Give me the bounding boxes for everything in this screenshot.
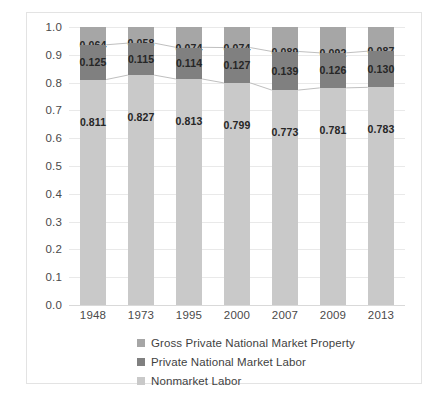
segment-private-national-market-labor[interactable]: 0.126 <box>320 53 346 88</box>
legend-label: Private National Market Labor <box>151 356 306 368</box>
bar-slot: 0.0870.1300.783 <box>357 27 405 305</box>
bar-slot: 0.0740.1140.813 <box>165 27 213 305</box>
bar-segment-value-label: 0.811 <box>80 116 106 128</box>
stacked-bar[interactable]: 0.0870.1300.783 <box>368 27 394 305</box>
segment-gross-private-national-market-property[interactable]: 0.058 <box>128 27 154 43</box>
legend-item[interactable]: Gross Private National Market Property <box>137 335 355 351</box>
segment-private-national-market-labor[interactable]: 0.130 <box>368 51 394 87</box>
segment-private-national-market-labor[interactable]: 0.125 <box>80 45 106 80</box>
segment-gross-private-national-market-property[interactable]: 0.089 <box>272 27 298 52</box>
bar-segment-value-label: 0.783 <box>368 123 395 135</box>
segment-nonmarket-labor[interactable]: 0.813 <box>176 79 202 305</box>
y-axis-tick-label: 0.9 <box>45 49 62 61</box>
segment-nonmarket-labor[interactable]: 0.799 <box>224 83 250 305</box>
legend-color-swatch <box>137 358 145 366</box>
x-axis-tick-label: 2000 <box>213 309 261 321</box>
x-axis-tick-label: 2009 <box>309 309 357 321</box>
y-axis-tick-label: 0.2 <box>45 243 62 255</box>
segment-nonmarket-labor[interactable]: 0.811 <box>80 80 106 305</box>
y-axis-tick-label: 0.8 <box>45 77 62 89</box>
bar-slot: 0.0580.1150.827 <box>117 27 165 305</box>
segment-gross-private-national-market-property[interactable]: 0.087 <box>368 27 394 51</box>
stacked-bar[interactable]: 0.0890.1390.773 <box>272 27 298 305</box>
segment-gross-private-national-market-property[interactable]: 0.092 <box>320 27 346 53</box>
legend-item[interactable]: Private National Market Labor <box>137 354 355 370</box>
x-axis-tick-label: 1973 <box>117 309 165 321</box>
segment-gross-private-national-market-property[interactable]: 0.074 <box>224 27 250 48</box>
legend-item[interactable]: Nonmarket Labor <box>137 373 355 389</box>
x-axis-tick-label: 1995 <box>165 309 213 321</box>
bar-segment-value-label: 0.139 <box>272 65 299 77</box>
segment-private-national-market-labor[interactable]: 0.114 <box>176 48 202 80</box>
legend-label: Nonmarket Labor <box>151 375 241 387</box>
segment-nonmarket-labor[interactable]: 0.783 <box>368 87 394 305</box>
y-axis-tick-label: 0.4 <box>45 188 62 200</box>
legend-color-swatch <box>137 339 145 347</box>
segment-private-national-market-labor[interactable]: 0.139 <box>272 52 298 91</box>
bar-slot: 0.0920.1260.781 <box>309 27 357 305</box>
x-axis-tick-label: 2013 <box>357 309 405 321</box>
y-axis-tick-label: 0.5 <box>45 160 62 172</box>
segment-nonmarket-labor[interactable]: 0.773 <box>272 90 298 305</box>
bar-segment-value-label: 0.827 <box>128 111 155 123</box>
bar-slot: 0.0640.1250.811 <box>69 27 117 305</box>
bar-slot: 0.0740.1270.799 <box>213 27 261 305</box>
bar-group: 0.0640.1250.8110.0580.1150.8270.0740.114… <box>69 27 405 305</box>
gridline: 0.0 <box>69 305 405 306</box>
x-axis-tick-label: 1948 <box>69 309 117 321</box>
y-axis-tick-label: 0.1 <box>45 271 62 283</box>
bar-segment-value-label: 0.813 <box>176 115 203 127</box>
bar-segment-value-label: 0.127 <box>224 59 251 71</box>
bar-segment-value-label: 0.126 <box>320 64 347 76</box>
bar-segment-value-label: 0.799 <box>224 119 251 131</box>
legend-label: Gross Private National Market Property <box>151 337 355 349</box>
y-axis-tick-label: 0.3 <box>45 216 62 228</box>
segment-nonmarket-labor[interactable]: 0.827 <box>128 75 154 305</box>
stacked-bar[interactable]: 0.0580.1150.827 <box>128 27 154 305</box>
segment-nonmarket-labor[interactable]: 0.781 <box>320 88 346 305</box>
chart-legend: Gross Private National Market PropertyPr… <box>137 335 355 389</box>
y-axis-tick-label: 0.7 <box>45 104 62 116</box>
stacked-bar[interactable]: 0.0640.1250.811 <box>80 27 106 305</box>
segment-private-national-market-labor[interactable]: 0.115 <box>128 43 154 75</box>
bar-segment-value-label: 0.125 <box>80 56 107 68</box>
segment-gross-private-national-market-property[interactable]: 0.064 <box>80 27 106 45</box>
y-axis-tick-label: 0.6 <box>45 132 62 144</box>
x-axis-tick-labels: 1948197319952000200720092013 <box>69 309 405 321</box>
bar-segment-value-label: 0.130 <box>368 63 395 75</box>
x-axis-tick-label: 2007 <box>261 309 309 321</box>
stacked-bar[interactable]: 0.0740.1140.813 <box>176 27 202 305</box>
bar-segment-value-label: 0.781 <box>320 124 347 136</box>
bar-segment-value-label: 0.773 <box>272 126 299 138</box>
bar-segment-value-label: 0.114 <box>176 57 202 69</box>
bar-slot: 0.0890.1390.773 <box>261 27 309 305</box>
stacked-bar[interactable]: 0.0920.1260.781 <box>320 27 346 305</box>
y-axis-tick-label: 1.0 <box>45 21 62 33</box>
chart-container: 1.00.90.80.70.60.50.40.30.20.10.0 0.0640… <box>26 12 422 384</box>
stacked-bar[interactable]: 0.0740.1270.799 <box>224 27 250 305</box>
y-axis-tick-label: 0.0 <box>45 299 62 311</box>
bar-segment-value-label: 0.115 <box>128 53 154 65</box>
plot-area: 1.00.90.80.70.60.50.40.30.20.10.0 0.0640… <box>69 27 405 305</box>
segment-gross-private-national-market-property[interactable]: 0.074 <box>176 27 202 48</box>
legend-color-swatch <box>137 377 145 385</box>
segment-private-national-market-labor[interactable]: 0.127 <box>224 48 250 83</box>
